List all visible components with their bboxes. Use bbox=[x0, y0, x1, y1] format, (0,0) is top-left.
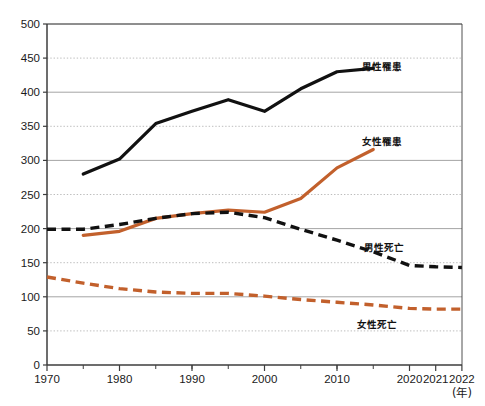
y-tick-label-450: 450 bbox=[21, 52, 40, 64]
series-label-male_mortality: 男性死亡 bbox=[364, 242, 404, 253]
y-tick-label-400: 400 bbox=[21, 86, 40, 98]
x-tick-label-2000: 2000 bbox=[252, 373, 278, 385]
x-tick-label-2020: 2020 bbox=[397, 373, 423, 385]
chart-canvas: 050100150200250300350400450500 197019801… bbox=[0, 0, 485, 406]
series-label-female_incidence: 女性罹患 bbox=[362, 136, 402, 147]
x-tick-label-2022: 2022 bbox=[449, 373, 475, 385]
y-tick-label-200: 200 bbox=[21, 223, 40, 235]
x-tick-label-2021: 2021 bbox=[423, 373, 449, 385]
x-axis-unit-label: (年) bbox=[452, 386, 472, 400]
y-tick-label-0: 0 bbox=[34, 359, 40, 371]
y-tick-label-150: 150 bbox=[21, 257, 40, 269]
x-tick-label-1970: 1970 bbox=[34, 373, 60, 385]
y-tick-label-350: 350 bbox=[21, 120, 40, 132]
series-label-male_incidence: 男性罹患 bbox=[362, 61, 402, 72]
y-tick-label-300: 300 bbox=[21, 154, 40, 166]
x-tick-label-1990: 1990 bbox=[179, 373, 205, 385]
chart-background bbox=[0, 0, 485, 406]
y-tick-label-500: 500 bbox=[21, 18, 40, 30]
y-tick-label-250: 250 bbox=[21, 189, 40, 201]
x-tick-label-2010: 2010 bbox=[324, 373, 350, 385]
y-tick-label-100: 100 bbox=[21, 291, 40, 303]
series-label-female_mortality: 女性死亡 bbox=[357, 319, 397, 330]
y-tick-label-50: 50 bbox=[27, 325, 40, 337]
cancer-rate-line-chart: 050100150200250300350400450500 197019801… bbox=[0, 0, 485, 406]
x-tick-label-1980: 1980 bbox=[107, 373, 133, 385]
